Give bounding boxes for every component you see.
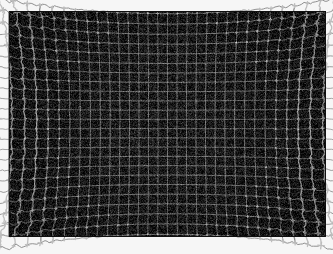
distortion-grid-image — [0, 0, 333, 254]
image-canvas-root: Photograph of a black grid calibration c… — [0, 0, 333, 254]
